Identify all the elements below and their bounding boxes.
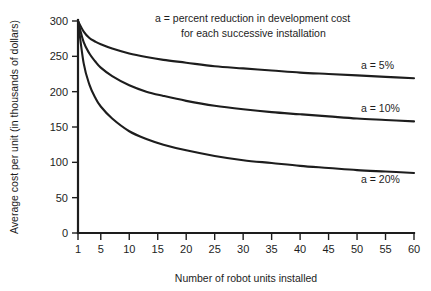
x-tick-label: 25 (209, 243, 221, 255)
x-tick-label: 60 (408, 243, 420, 255)
x-tick-label: 1 (75, 243, 81, 255)
y-tick-label: 0 (62, 227, 68, 239)
y-tick-label: 100 (50, 156, 68, 168)
x-axis-title: Number of robot units installed (175, 272, 318, 284)
series-label-0: a = 5% (361, 59, 394, 71)
series-line-2 (78, 21, 414, 173)
x-tick-label: 45 (322, 243, 334, 255)
x-tick-label: 30 (237, 243, 249, 255)
y-tick-label: 200 (50, 86, 68, 98)
x-tick-label: 40 (294, 243, 306, 255)
x-tick-label: 5 (98, 243, 104, 255)
y-axis-title: Average cost per unit (in thousands of d… (8, 20, 20, 234)
learning-curve-chart: 0501001502002503001510152025303540455055… (0, 0, 431, 291)
chart-note-line: for each successive installation (181, 27, 326, 39)
x-tick-label: 35 (266, 243, 278, 255)
x-tick-label: 55 (379, 243, 391, 255)
chart-canvas: 0501001502002503001510152025303540455055… (0, 0, 431, 291)
y-tick-label: 250 (50, 50, 68, 62)
y-tick-label: 150 (50, 121, 68, 133)
y-tick-label: 50 (56, 192, 68, 204)
x-tick-label: 50 (351, 243, 363, 255)
y-tick-label: 300 (50, 15, 68, 27)
chart-note-line: a = percent reduction in development cos… (155, 12, 350, 24)
series-label-2: a = 20% (361, 173, 400, 185)
x-tick-label: 20 (180, 243, 192, 255)
x-tick-label: 15 (152, 243, 164, 255)
x-tick-label: 10 (123, 243, 135, 255)
series-label-1: a = 10% (361, 102, 400, 114)
